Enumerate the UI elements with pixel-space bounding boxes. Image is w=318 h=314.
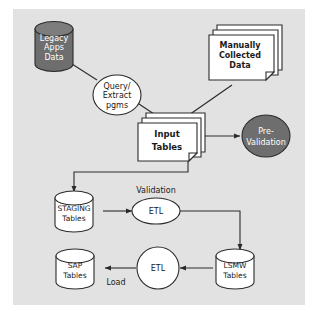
query-line-3: pgms	[106, 101, 128, 110]
query-line-2: Extract	[103, 91, 132, 100]
prevalidation-ellipse	[242, 115, 290, 157]
manual-line-2: Collected	[219, 51, 261, 60]
node-etl-validation[interactable]: ETL	[132, 198, 180, 224]
node-sap-tables[interactable]: SAP Tables	[56, 249, 94, 289]
etl-flow-diagram: Legacy Apps Data Query/ Extract pgms Man…	[0, 0, 318, 314]
input-line-2: Tables	[152, 142, 182, 152]
node-legacy-apps-data[interactable]: Legacy Apps Data	[35, 22, 73, 72]
node-manually-collected-data[interactable]: Manually Collected Data	[209, 25, 282, 80]
legacy-line-1: Legacy	[40, 34, 69, 43]
node-staging-tables[interactable]: STAGING Tables	[55, 191, 93, 232]
lsmw-line-1: LSMW	[224, 261, 247, 270]
validation-edge-label: Validation	[136, 186, 176, 195]
manual-line-3: Data	[229, 61, 250, 70]
staging-line-2: Tables	[61, 214, 85, 223]
node-etl-load[interactable]: ETL	[137, 247, 179, 289]
node-lsmw-tables[interactable]: LSMW Tables	[216, 249, 254, 289]
load-edge-label: Load	[106, 278, 125, 287]
legacy-line-2: Apps	[44, 43, 64, 52]
sap-line-1: SAP	[68, 261, 83, 270]
node-input-tables[interactable]: Input Tables	[138, 113, 205, 161]
node-pre-validation[interactable]: Pre- Validation	[242, 115, 290, 157]
query-line-1: Query/	[103, 82, 130, 91]
prevalidation-line-1: Pre-	[258, 127, 274, 136]
lsmw-line-2: Tables	[222, 271, 246, 280]
staging-line-1: STAGING	[57, 204, 90, 213]
manual-line-1: Manually	[220, 41, 262, 50]
diagram-canvas: Legacy Apps Data Query/ Extract pgms Man…	[0, 0, 318, 314]
node-query-extract-pgms[interactable]: Query/ Extract pgms	[93, 75, 141, 115]
sap-line-2: Tables	[62, 271, 86, 280]
etl-load-label: ETL	[151, 264, 166, 273]
staging-cylinder-top	[55, 191, 93, 205]
input-line-1: Input	[154, 129, 179, 139]
etl-validation-label: ETL	[149, 207, 164, 216]
prevalidation-line-2: Validation	[246, 138, 286, 147]
legacy-line-3: Data	[44, 53, 63, 62]
